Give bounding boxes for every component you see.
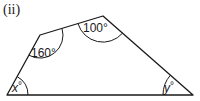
angle-label-x: x° bbox=[11, 80, 22, 95]
degree-sign: ° bbox=[170, 80, 174, 91]
angle-label-y: y° bbox=[163, 80, 174, 95]
angle-label-160: 160° bbox=[31, 46, 56, 60]
part-label: (ii) bbox=[3, 2, 20, 18]
quadrilateral-diagram: (ii) 160° 100° x° y° bbox=[0, 0, 200, 101]
degree-sign: ° bbox=[18, 80, 22, 91]
angle-label-100: 100° bbox=[83, 21, 108, 35]
